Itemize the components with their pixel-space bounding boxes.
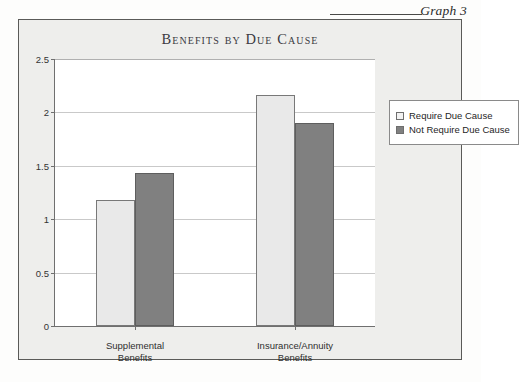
y-axis-tick-label: 1 [44, 214, 49, 225]
plot-area: 00.511.522.5SupplementalBenefitsInsuranc… [54, 59, 375, 327]
graph-caption-label: Graph 3 [420, 3, 467, 19]
legend-label: Not Require Due Cause [409, 124, 510, 135]
caption-rule [330, 14, 422, 15]
chart-title: Benefits by Due Cause [19, 31, 461, 48]
x-axis-tick-mark [295, 326, 296, 330]
bar-0-0 [96, 200, 135, 326]
bar-1-0 [256, 95, 295, 326]
legend-swatch-icon [396, 126, 404, 134]
y-axis-tick-mark [51, 273, 55, 274]
chart-frame: Benefits by Due Cause 00.511.522.5Supple… [18, 19, 462, 360]
x-axis-tick-mark [135, 326, 136, 330]
legend-item-0[interactable]: Require Due Cause [396, 110, 510, 121]
chart-legend: Require Due CauseNot Require Due Cause [389, 100, 519, 145]
y-axis-tick-label: 0 [44, 321, 49, 332]
x-axis-category-label-line: Benefits [257, 352, 333, 364]
legend-item-1[interactable]: Not Require Due Cause [396, 124, 510, 135]
y-axis-tick-label: 0.5 [36, 267, 49, 278]
x-axis-category-label: Insurance/AnnuityBenefits [257, 340, 333, 364]
bar-0-1 [135, 173, 174, 326]
gridline [55, 59, 375, 60]
y-axis-tick-label: 2.5 [36, 54, 49, 65]
y-axis-tick-mark [51, 59, 55, 60]
gridline [55, 112, 375, 113]
y-axis-tick-mark [51, 166, 55, 167]
y-axis-tick-label: 1.5 [36, 160, 49, 171]
x-axis-category-label-line: Insurance/Annuity [257, 340, 333, 352]
legend-swatch-icon [396, 112, 404, 120]
bar-1-1 [295, 123, 334, 326]
y-axis-tick-mark [51, 326, 55, 327]
y-axis-tick-mark [51, 112, 55, 113]
x-axis-category-label: SupplementalBenefits [106, 340, 164, 364]
y-axis-tick-mark [51, 219, 55, 220]
legend-label: Require Due Cause [409, 110, 492, 121]
x-axis-category-label-line: Supplemental [106, 340, 164, 352]
x-axis-category-label-line: Benefits [106, 352, 164, 364]
y-axis-tick-label: 2 [44, 107, 49, 118]
